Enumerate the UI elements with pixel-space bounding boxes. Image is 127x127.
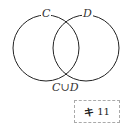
tag-box: キ 11	[74, 100, 120, 123]
circle-d	[53, 15, 119, 81]
set-label-d: D	[82, 8, 93, 19]
tag-mark: キ	[84, 104, 94, 119]
circle-c	[13, 15, 79, 81]
tag-number: 11	[97, 106, 110, 117]
union-label: C∪D	[51, 82, 79, 93]
set-label-c: C	[41, 8, 51, 19]
